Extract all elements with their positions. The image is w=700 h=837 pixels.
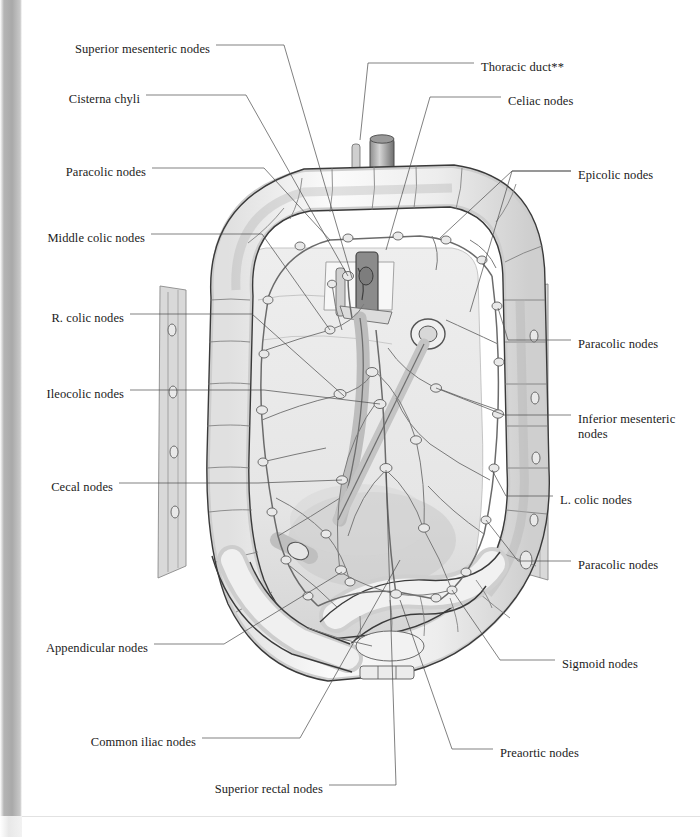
label-ileocolic-nodes: Ileocolic nodes — [46, 387, 124, 402]
label-middle-colic-nodes: Middle colic nodes — [47, 231, 145, 246]
label-inferior-mesenteric-nodes: Inferior mesenteric nodes — [578, 412, 688, 441]
label-sigmoid-nodes: Sigmoid nodes — [562, 657, 638, 672]
label-superior-rectal-nodes: Superior rectal nodes — [215, 782, 323, 797]
label-cecal-nodes: Cecal nodes — [51, 480, 113, 495]
label-paracolic-nodes-lower-right: Paracolic nodes — [578, 558, 658, 573]
label-superior-mesenteric-nodes: Superior mesenteric nodes — [75, 42, 210, 57]
label-r-colic-nodes: R. colic nodes — [51, 311, 124, 326]
label-thoracic-duct: Thoracic duct** — [481, 60, 564, 75]
label-cisterna-chyli: Cisterna chyli — [69, 92, 140, 107]
label-preaortic-nodes: Preaortic nodes — [500, 746, 579, 761]
label-common-iliac-nodes: Common iliac nodes — [91, 735, 196, 750]
label-epicolic-nodes: Epicolic nodes — [578, 168, 653, 183]
label-celiac-nodes: Celiac nodes — [508, 94, 573, 109]
label-paracolic-nodes-upper-left: Paracolic nodes — [66, 165, 146, 180]
leader-thoracic-duct — [360, 63, 474, 140]
label-paracolic-nodes-mid-right: Paracolic nodes — [578, 337, 658, 352]
label-appendicular-nodes: Appendicular nodes — [46, 641, 148, 656]
label-l-colic-nodes: L. colic nodes — [560, 493, 632, 508]
figure-page: Superior mesenteric nodes Cisterna chyli… — [0, 0, 700, 837]
